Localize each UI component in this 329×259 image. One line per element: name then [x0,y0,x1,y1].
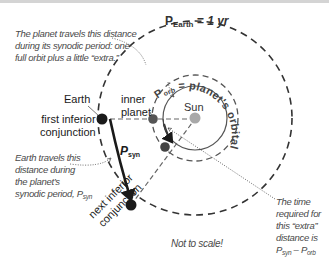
earth-label: Earth [64,93,90,106]
first-conjunction-label: first inferior conjunction [40,113,96,139]
extra-distance-arc [164,124,172,142]
psyn-label: Psyn [120,144,140,158]
time-required-note: The time required for this “extra” dista… [276,196,321,259]
inner-planet-label: inner planet [121,93,151,119]
pearth-label: PEarth = 1 yr [165,14,229,29]
not-to-scale-note: Not to scale! [171,238,223,250]
sun-label: Sun [184,101,204,114]
earth-travels-note: Earth travels this distance during the p… [15,152,92,203]
earth-first-conjunction [97,114,108,125]
time-required-leader [168,128,275,199]
planet-travels-note: The planet travels this distance during … [15,28,136,64]
inner-planet-next [160,142,170,152]
sun [190,113,201,124]
